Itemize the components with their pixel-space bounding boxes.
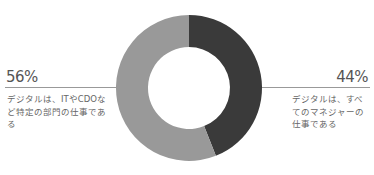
right-percent-label: 44%	[336, 68, 368, 86]
left-description: デジタルは、ITやCDOなど特定の部門の仕事である	[7, 93, 112, 131]
left-leader-line	[5, 87, 117, 88]
donut-segments	[116, 15, 262, 161]
right-description: デジタルは、すべてのマネジャーの仕事である	[292, 93, 370, 131]
left-percent-label: 56%	[6, 68, 38, 86]
right-leader-line	[262, 87, 370, 88]
